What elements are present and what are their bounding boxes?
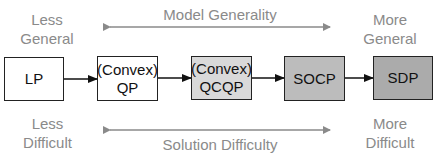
box-qcqp: (Convex) QCQP — [191, 56, 252, 100]
box-qp: (Convex) QP — [97, 56, 158, 101]
box-qp-line1: (Convex) — [97, 61, 158, 79]
box-socp: SOCP — [284, 56, 345, 101]
less-general-line1: Less — [12, 10, 82, 29]
solution-difficulty-label: Solution Difficulty — [150, 135, 290, 154]
model-generality-label: Model Generality — [150, 5, 290, 24]
less-general-line2: General — [12, 29, 82, 48]
more-difficult-line1: More — [350, 114, 430, 133]
box-qp-line2: QP — [117, 79, 139, 97]
box-socp-label: SOCP — [293, 70, 336, 88]
box-qcqp-line1: (Convex) — [191, 60, 252, 78]
more-general-line1: More — [350, 10, 430, 29]
more-general-label: More General — [350, 10, 430, 48]
less-difficult-line2: Difficult — [10, 133, 85, 152]
less-difficult-label: Less Difficult — [10, 114, 85, 152]
box-lp-label: LP — [25, 70, 43, 88]
more-difficult-label: More Difficult — [350, 114, 430, 152]
box-lp: LP — [4, 57, 64, 101]
more-difficult-line2: Difficult — [350, 133, 430, 152]
less-general-label: Less General — [12, 10, 82, 48]
box-sdp-label: SDP — [388, 69, 419, 87]
more-general-line2: General — [350, 29, 430, 48]
box-sdp: SDP — [373, 56, 433, 100]
less-difficult-line1: Less — [10, 114, 85, 133]
box-qcqp-line2: QCQP — [199, 78, 243, 96]
